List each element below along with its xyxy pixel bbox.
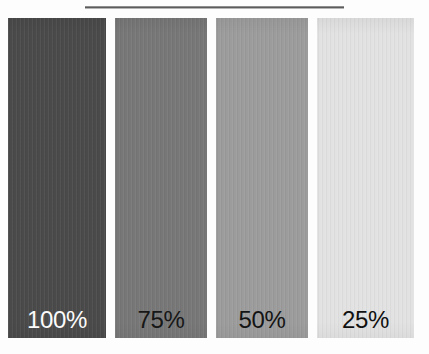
swatch-fill <box>216 18 308 338</box>
tint-chart-figure: 100% 75% 50% 25% <box>0 0 429 354</box>
swatch-50[interactable]: 50% <box>216 18 308 338</box>
swatch-fill <box>8 18 106 338</box>
swatch-label-50: 50% <box>216 308 308 332</box>
swatch-label-25: 25% <box>317 308 414 332</box>
swatch-label-100: 100% <box>8 308 106 332</box>
swatch-fill <box>317 18 414 338</box>
swatch-row: 100% 75% 50% 25% <box>8 18 414 338</box>
swatch-100[interactable]: 100% <box>8 18 106 338</box>
swatch-25[interactable]: 25% <box>317 18 414 338</box>
swatch-fill <box>115 18 207 338</box>
swatch-label-75: 75% <box>115 308 207 332</box>
swatch-75[interactable]: 75% <box>115 18 207 338</box>
horizontal-rule <box>85 6 344 9</box>
